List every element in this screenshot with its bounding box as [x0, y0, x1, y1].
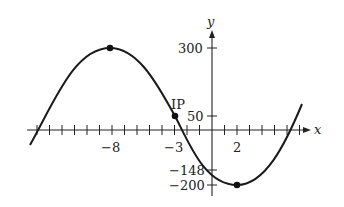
- y-tick-label-neg200: −200: [169, 178, 205, 193]
- x-tick-label-neg8: −8: [101, 140, 120, 155]
- maximum-point: [107, 45, 114, 52]
- inflection-point: [172, 113, 179, 120]
- y-tick-label-300: 300: [178, 41, 203, 56]
- x-tick-label-neg3: −3: [164, 140, 183, 155]
- y-axis-label: y: [206, 14, 215, 29]
- y-axis-arrow-icon: [209, 30, 215, 38]
- inflection-point-label: IP: [171, 97, 185, 112]
- sinusoid-graph: y x −8 −3 2 300 50 −148 −200 IP: [0, 0, 344, 207]
- x-axis: [27, 125, 311, 135]
- x-tick-label-2: 2: [233, 140, 241, 155]
- x-axis-arrow-icon: [303, 127, 311, 133]
- y-tick-label-50: 50: [187, 109, 204, 124]
- minimum-point: [234, 182, 241, 189]
- y-tick-label-neg148: −148: [169, 163, 205, 178]
- function-curve: [30, 48, 302, 185]
- x-axis-label: x: [314, 122, 322, 137]
